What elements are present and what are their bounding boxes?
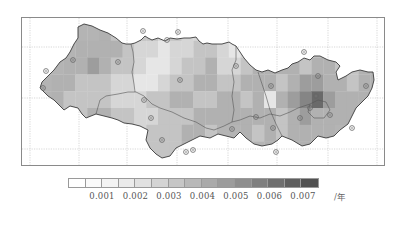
grid-cell xyxy=(370,74,382,91)
grid-cell xyxy=(170,142,182,159)
grid-cell xyxy=(158,41,170,58)
grid-cell xyxy=(193,125,205,142)
grid-cell xyxy=(111,108,123,125)
legend-tick-label: 0.002 xyxy=(123,191,148,201)
legend-swatch xyxy=(235,179,252,187)
grid-cell xyxy=(134,108,146,125)
grid-cell xyxy=(87,41,99,58)
station-marker-dot xyxy=(275,151,277,153)
grid-cell xyxy=(158,74,170,91)
grid-cell xyxy=(40,108,52,125)
station-marker-dot xyxy=(161,139,163,141)
grid-cell xyxy=(252,91,264,108)
grid-cell xyxy=(347,142,359,159)
legend-swatch xyxy=(202,179,219,187)
grid-cell xyxy=(311,74,323,91)
grid-cell xyxy=(87,74,99,91)
grid-cell xyxy=(323,142,335,159)
grid-cell xyxy=(276,24,288,41)
grid-cell xyxy=(217,91,229,108)
grid-cell xyxy=(111,142,123,159)
grid-cell xyxy=(276,108,288,125)
grid-cell xyxy=(182,108,194,125)
grid-cell xyxy=(205,24,217,41)
grid-cell xyxy=(205,58,217,75)
grid-cell xyxy=(229,74,241,91)
grid-cell xyxy=(241,24,253,41)
station-marker-dot xyxy=(329,114,331,116)
legend-swatch xyxy=(86,179,103,187)
grid-cell xyxy=(370,125,382,142)
station-marker-dot xyxy=(150,117,152,119)
station-marker-dot xyxy=(117,61,119,63)
station-marker-dot xyxy=(255,116,257,118)
grid-cell xyxy=(111,91,123,108)
grid-cell xyxy=(99,24,111,41)
grid-cell xyxy=(205,142,217,159)
grid-cell xyxy=(170,41,182,58)
grid-cell xyxy=(359,108,371,125)
grid-cell xyxy=(311,41,323,58)
grid-cell xyxy=(217,125,229,142)
grid-cell xyxy=(300,41,312,58)
grid-cell xyxy=(241,142,253,159)
station-marker-dot xyxy=(365,85,367,87)
grid-cell xyxy=(335,91,347,108)
grid-cell xyxy=(52,74,64,91)
station-marker-dot xyxy=(177,31,179,33)
legend-swatch xyxy=(218,179,235,187)
grid-cell xyxy=(205,91,217,108)
grid-cell xyxy=(288,24,300,41)
grid-cell xyxy=(193,24,205,41)
grid-cell xyxy=(205,125,217,142)
station-marker-dot xyxy=(272,127,274,129)
grid-cell xyxy=(75,74,87,91)
grid-cell xyxy=(311,108,323,125)
grid-cell xyxy=(217,142,229,159)
grid-cell xyxy=(193,91,205,108)
legend-swatch xyxy=(119,179,136,187)
grid-cell xyxy=(229,142,241,159)
grid-cell xyxy=(75,91,87,108)
grid-cell xyxy=(111,41,123,58)
grid-cell xyxy=(359,125,371,142)
grid-cell xyxy=(52,108,64,125)
grid-cell xyxy=(52,142,64,159)
grid-cell xyxy=(87,91,99,108)
grid-cell xyxy=(300,74,312,91)
station-marker-dot xyxy=(185,151,187,153)
grid-cell xyxy=(99,58,111,75)
grid-cell xyxy=(323,41,335,58)
legend-swatch xyxy=(169,179,186,187)
grid-cell xyxy=(264,125,276,142)
grid-cell xyxy=(217,74,229,91)
grid-cell xyxy=(359,74,371,91)
legend-tick-label: 0.003 xyxy=(156,191,181,201)
legend-tick-label: 0.001 xyxy=(89,191,114,201)
grid-cell xyxy=(359,24,371,41)
grid-cell xyxy=(182,41,194,58)
grid-cell xyxy=(134,125,146,142)
station-marker-dot xyxy=(231,128,233,130)
grid-cell xyxy=(52,125,64,142)
grid-cell xyxy=(370,24,382,41)
grid-cell xyxy=(276,41,288,58)
grid-cell xyxy=(64,58,76,75)
grid-cell xyxy=(300,24,312,41)
grid-cell xyxy=(111,125,123,142)
grid-cell xyxy=(264,58,276,75)
grid-cell xyxy=(264,74,276,91)
grid-cell xyxy=(264,41,276,58)
grid-cell xyxy=(134,58,146,75)
grid-cell xyxy=(370,108,382,125)
grid-cell xyxy=(146,125,158,142)
grid-cell xyxy=(123,91,135,108)
grid-cell xyxy=(64,74,76,91)
grid-cell xyxy=(134,142,146,159)
grid-cell xyxy=(300,125,312,142)
grid-cell xyxy=(111,74,123,91)
grid-cell xyxy=(182,91,194,108)
grid-cell xyxy=(146,74,158,91)
grid-cell xyxy=(182,58,194,75)
grid-cell xyxy=(323,24,335,41)
